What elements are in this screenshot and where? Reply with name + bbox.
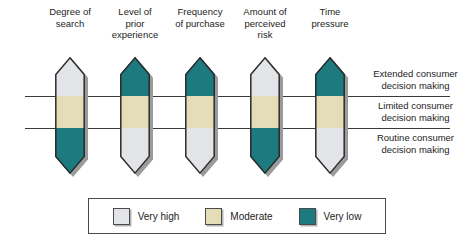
arrow-amount-of-perceived-risk: [250, 57, 280, 174]
legend-item-very-low: Very low: [299, 208, 362, 225]
legend-label-very-low: Very low: [324, 211, 362, 222]
column-header-amount-of-perceived-risk: Amount of perceived risk: [229, 6, 301, 41]
legend: Very highModerateVery low: [88, 198, 386, 234]
arrow-frequency-of-purchase: [185, 57, 215, 174]
arrow-outline: [55, 57, 85, 174]
stage-label-routine: Routine consumer decision making: [363, 132, 468, 155]
legend-item-very-high: Very high: [113, 208, 180, 225]
column-header-level-of-prior-experience: Level of prior experience: [99, 6, 171, 41]
legend-label-very-high: Very high: [138, 211, 180, 222]
legend-label-moderate: Moderate: [230, 211, 272, 222]
arrow-time-pressure: [315, 57, 345, 174]
legend-swatch-moderate: [205, 208, 222, 225]
arrow-outline: [185, 57, 215, 174]
arrow-level-of-prior-experience: [120, 57, 150, 174]
column-header-time-pressure: Time pressure: [294, 6, 366, 29]
divider-line-lower: [25, 128, 450, 129]
column-header-frequency-of-purchase: Frequency of purchase: [164, 6, 236, 29]
divider-line-upper: [25, 96, 450, 97]
arrow-degree-of-search: [55, 57, 85, 174]
arrow-outline: [315, 57, 345, 174]
arrow-outline: [250, 57, 280, 174]
legend-swatch-very-high: [113, 208, 130, 225]
legend-item-moderate: Moderate: [205, 208, 272, 225]
stage-label-extended: Extended consumer decision making: [363, 68, 468, 91]
stage-label-limited: Limited consumer decision making: [363, 100, 468, 123]
legend-swatch-very-low: [299, 208, 316, 225]
diagram-canvas: Degree of searchLevel of prior experienc…: [0, 0, 472, 249]
column-header-degree-of-search: Degree of search: [34, 6, 106, 29]
arrow-outline: [120, 57, 150, 174]
column-headers: Degree of searchLevel of prior experienc…: [0, 6, 472, 54]
